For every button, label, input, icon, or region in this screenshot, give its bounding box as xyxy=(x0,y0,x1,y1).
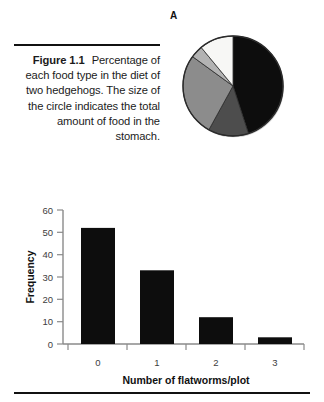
y-tick-label-40: 40 xyxy=(42,249,53,260)
x-tick-label-2: 2 xyxy=(213,357,218,368)
bar-1 xyxy=(140,270,174,344)
caption-top-rule xyxy=(14,44,160,46)
y-axis-ticks: 60 50 40 30 20 10 0 xyxy=(42,205,63,350)
y-tick-label-10: 10 xyxy=(42,316,53,327)
bar-series xyxy=(81,228,292,344)
y-tick-label-30: 30 xyxy=(42,272,53,283)
y-axis-title: Frequency xyxy=(24,250,36,303)
x-tick-label-3: 3 xyxy=(272,357,277,368)
pie-chart-panel: A xyxy=(165,6,315,161)
bar-0 xyxy=(81,228,115,344)
x-tick-label-0: 0 xyxy=(95,357,100,368)
y-tick-label-50: 50 xyxy=(42,227,53,238)
figure-caption-block: Figure 1.1Percentage of each food type i… xyxy=(14,44,160,144)
bar-3 xyxy=(258,337,292,344)
x-axis-ticks: 0 1 2 3 xyxy=(68,344,304,368)
y-tick-label-20: 20 xyxy=(42,294,53,305)
panel-label-a: A xyxy=(170,10,177,21)
x-tick-label-1: 1 xyxy=(154,357,159,368)
pie-chart-svg xyxy=(181,11,291,157)
y-tick-label-0: 0 xyxy=(48,339,53,350)
x-axis-title: Number of flatworms/plot xyxy=(122,374,250,386)
bar-chart-svg: 60 50 40 30 20 10 0 xyxy=(6,196,318,386)
figure-caption-text: Percentage of each food type in the diet… xyxy=(25,54,160,142)
bar-2 xyxy=(199,317,233,344)
figure-caption-label: Figure 1.1 xyxy=(33,54,85,66)
y-tick-label-60: 60 xyxy=(42,205,53,216)
bar-chart-panel: 60 50 40 30 20 10 0 xyxy=(6,196,318,386)
figure-page: Figure 1.1Percentage of each food type i… xyxy=(0,0,324,402)
page-bottom-rule xyxy=(14,392,310,394)
figure-caption: Figure 1.1Percentage of each food type i… xyxy=(14,53,160,144)
